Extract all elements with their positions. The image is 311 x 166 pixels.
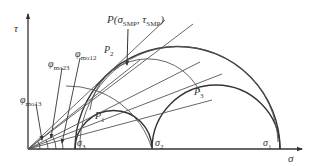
tangent-line-23	[28, 62, 200, 149]
tangent-line-b	[28, 60, 140, 149]
point-label-p3: P3	[193, 86, 204, 100]
tangent-line-smp	[28, 20, 165, 149]
angle-label-mo13: φmo13	[20, 94, 42, 108]
intermediate-arc-1	[80, 46, 278, 149]
leader-mo13	[36, 104, 42, 140]
mohr-circle-12	[152, 85, 280, 149]
sigma-axis-label: σ	[288, 152, 294, 164]
tangent-line-13	[28, 24, 193, 149]
smp-point-label: P(σSMP, τSMP)	[106, 13, 164, 28]
angle-label-mo12: φmo12	[75, 48, 97, 62]
angle-label-mo23: φmo23	[48, 58, 70, 72]
mohr-circle-diagram: τ σ φmo13 φmo23 φmo12 P(σSMP, τSMP) P2 P…	[0, 0, 311, 166]
tau-axis-label: τ	[14, 22, 19, 34]
intermediate-arc-4	[90, 59, 200, 110]
tangent-line-12	[28, 74, 222, 149]
point-label-p2: P2	[103, 44, 114, 58]
diagram-canvas: τ σ φmo13 φmo23 φmo12 P(σSMP, τSMP) P2 P…	[0, 0, 311, 166]
